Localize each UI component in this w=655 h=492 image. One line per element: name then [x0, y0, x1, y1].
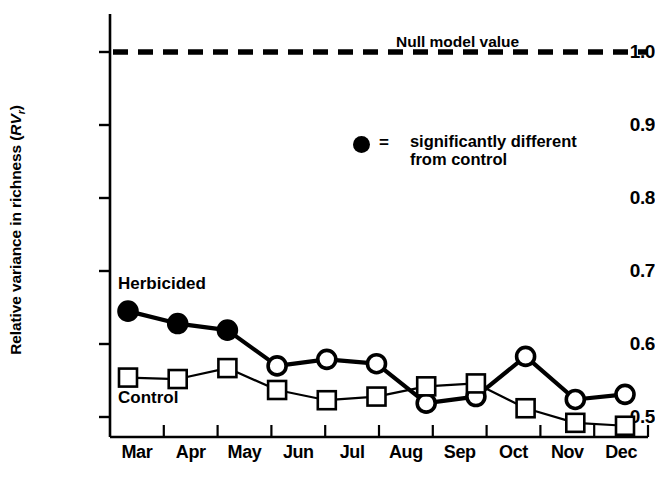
- filled-circle-icon: [353, 136, 370, 153]
- series-label-herbicided: Herbicided: [118, 274, 206, 294]
- data-point-square: [169, 370, 187, 388]
- data-point-open-circle: [417, 394, 435, 412]
- data-point-square: [368, 388, 386, 406]
- data-point-square: [566, 414, 584, 432]
- series-label-control: Control: [118, 388, 178, 408]
- data-point-square: [467, 374, 485, 392]
- series-markers: [119, 302, 634, 435]
- legend-equals-sign: =: [379, 133, 389, 153]
- data-point-square: [218, 359, 236, 377]
- data-point-open-circle: [318, 350, 336, 368]
- legend-line-1: significantly different: [410, 132, 577, 150]
- data-point-significant: [169, 315, 187, 333]
- data-point-significant: [119, 302, 137, 320]
- legend-description: significantly different from control: [410, 132, 577, 169]
- data-point-square: [318, 391, 336, 409]
- data-point-square: [417, 377, 435, 395]
- plot-area: [0, 0, 655, 492]
- y-tick-marks: [99, 52, 110, 417]
- data-point-square: [616, 417, 634, 435]
- data-point-square: [268, 381, 286, 399]
- legend: = significantly different from control: [353, 132, 577, 169]
- data-point-significant: [218, 321, 236, 339]
- data-point-open-circle: [566, 390, 584, 408]
- legend-line-2: from control: [410, 150, 577, 168]
- null-model-label: Null model value: [396, 33, 519, 51]
- data-point-square: [517, 399, 535, 417]
- data-point-square: [119, 369, 137, 387]
- data-point-open-circle: [616, 385, 634, 403]
- data-point-open-circle: [517, 347, 535, 365]
- data-point-open-circle: [368, 355, 386, 373]
- data-point-open-circle: [268, 357, 286, 375]
- chart-figure: Relative variance in richness (RVr) 0.50…: [0, 0, 655, 492]
